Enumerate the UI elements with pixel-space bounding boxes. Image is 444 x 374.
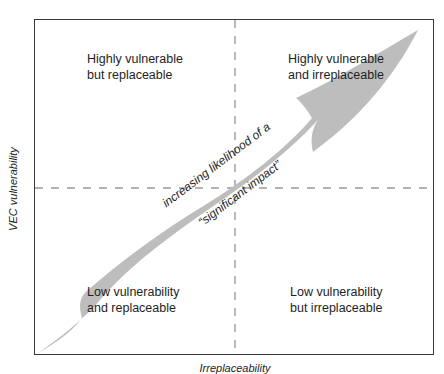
quadrant-top-left-line2: but replaceable [87,67,183,83]
quadrant-top-right-line2: and irreplaceable [288,67,384,83]
quadrant-bottom-left-line1: Low vulnerability [87,284,179,300]
quadrant-top-left-line1: Highly vulnerable [87,51,183,67]
quadrant-bottom-left: Low vulnerability and replaceable [87,284,179,316]
quadrant-bottom-right: Low vulnerability but irreplaceable [290,284,382,316]
quadrant-top-right: Highly vulnerable and irreplaceable [288,51,384,83]
quadrant-top-left: Highly vulnerable but replaceable [87,51,183,83]
y-axis-label: VEC vulnerability [7,147,19,231]
quadrant-top-right-line1: Highly vulnerable [288,51,384,67]
quadrant-bottom-left-line2: and replaceable [87,300,179,316]
quadrant-bottom-right-line2: but irreplaceable [290,300,382,316]
x-axis-label: Irreplaceability [200,362,271,374]
quadrant-bottom-right-line1: Low vulnerability [290,284,382,300]
